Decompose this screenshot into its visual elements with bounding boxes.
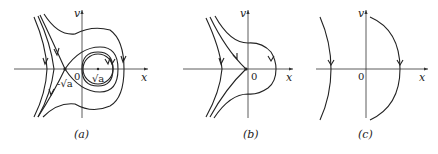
center-point-label: √a bbox=[92, 73, 104, 84]
center-point bbox=[97, 68, 99, 70]
phase-portraits-figure: v x 0 -√a √a (a) v x 0 bbox=[0, 0, 438, 154]
v-axis-label: v bbox=[240, 7, 247, 20]
x-axis-label: x bbox=[419, 71, 426, 84]
origin-label: 0 bbox=[251, 71, 257, 82]
panel-a: v x 0 -√a √a (a) bbox=[14, 7, 148, 141]
separatrix-curve bbox=[38, 15, 118, 117]
right-trajectory bbox=[370, 17, 400, 120]
x-axis-label: x bbox=[141, 71, 148, 84]
flow-arrow bbox=[219, 58, 224, 64]
panel-caption: (a) bbox=[74, 128, 89, 141]
flow-arrow bbox=[43, 58, 48, 64]
v-axis-label: v bbox=[358, 7, 365, 20]
panel-caption: (c) bbox=[358, 128, 373, 141]
x-axis-label: x bbox=[286, 71, 293, 84]
flow-arrow bbox=[268, 56, 274, 61]
flow-arrow bbox=[233, 53, 237, 59]
panel-caption: (b) bbox=[243, 128, 259, 141]
v-axis-label: v bbox=[74, 7, 81, 20]
panel-c: v x 0 (c) bbox=[316, 7, 428, 141]
origin-label: 0 bbox=[358, 71, 364, 82]
flow-arrow bbox=[105, 58, 110, 64]
left-trajectory bbox=[320, 17, 331, 120]
panel-b: v x 0 (b) bbox=[183, 7, 293, 141]
outer-trajectory bbox=[214, 16, 276, 118]
origin-label: 0 bbox=[74, 71, 80, 82]
left-trajectory bbox=[206, 18, 222, 117]
